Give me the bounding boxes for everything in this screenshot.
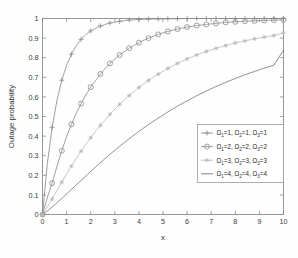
x-tick-label: 2 (89, 217, 93, 226)
y-tick-label: 0.7 (29, 73, 39, 82)
marker-series-3 (69, 164, 73, 168)
x-tick-label: 3 (113, 217, 117, 226)
x-tick-label: 10 (280, 217, 288, 226)
x-tick-label: 5 (161, 217, 165, 226)
marker-series-3 (262, 35, 266, 39)
marker-series-3 (79, 149, 83, 153)
marker-series-3 (117, 102, 121, 106)
marker-series-3 (98, 123, 102, 127)
x-tick-label: 9 (257, 217, 261, 226)
outage-probability-chart: 01234567891000.10.20.30.40.50.60.70.80.9… (0, 0, 298, 258)
marker-series-3 (89, 135, 93, 139)
marker-series-3 (195, 53, 199, 57)
marker-series-3 (243, 39, 247, 43)
marker-series-3 (108, 112, 112, 116)
marker-series-3 (175, 61, 179, 65)
x-tick-label: 7 (209, 217, 213, 226)
marker-series-3 (272, 33, 276, 37)
marker-series-3 (204, 49, 208, 53)
marker-series-3 (137, 85, 141, 89)
marker-series-3 (223, 43, 227, 47)
x-tick-label: 1 (65, 217, 69, 226)
x-tick-label: 8 (233, 217, 237, 226)
x-tick-label: 4 (137, 217, 141, 226)
y-tick-label: 0.3 (29, 151, 39, 160)
y-tick-label: 0.5 (29, 112, 39, 121)
marker-series-3 (50, 197, 54, 201)
marker-series-3 (185, 57, 189, 61)
y-tick-label: 0 (35, 210, 39, 219)
marker-series-3 (214, 46, 218, 50)
y-tick-label: 0.6 (29, 93, 39, 102)
marker-series-3 (252, 37, 256, 41)
marker-series-3 (166, 66, 170, 70)
legend-marker-star (205, 158, 209, 162)
marker-series-3 (127, 93, 131, 97)
marker-series-3 (281, 31, 285, 35)
y-tick-label: 0.1 (29, 191, 39, 200)
x-tick-label: 6 (185, 217, 189, 226)
y-tick-label: 0.4 (29, 132, 39, 141)
y-tick-label: 0.8 (29, 53, 39, 62)
y-tick-label: 0.9 (29, 34, 39, 43)
y-tick-label: 0.2 (29, 171, 39, 180)
marker-series-3 (146, 78, 150, 82)
x-tick-label: 0 (41, 217, 45, 226)
legend-box[interactable]: Ω1=1, Ω2=1, Ω3=1Ω1=2, Ω2=2, Ω3=2Ω1=3, Ω2… (198, 125, 284, 183)
y-axis-title: Outage probability (7, 85, 16, 148)
y-tick-label: 1 (35, 14, 39, 23)
marker-series-3 (156, 72, 160, 76)
x-axis-title: x (161, 233, 165, 242)
figure-canvas: 01234567891000.10.20.30.40.50.60.70.80.9… (0, 0, 298, 258)
marker-series-3 (233, 41, 237, 45)
marker-series-3 (60, 180, 64, 184)
